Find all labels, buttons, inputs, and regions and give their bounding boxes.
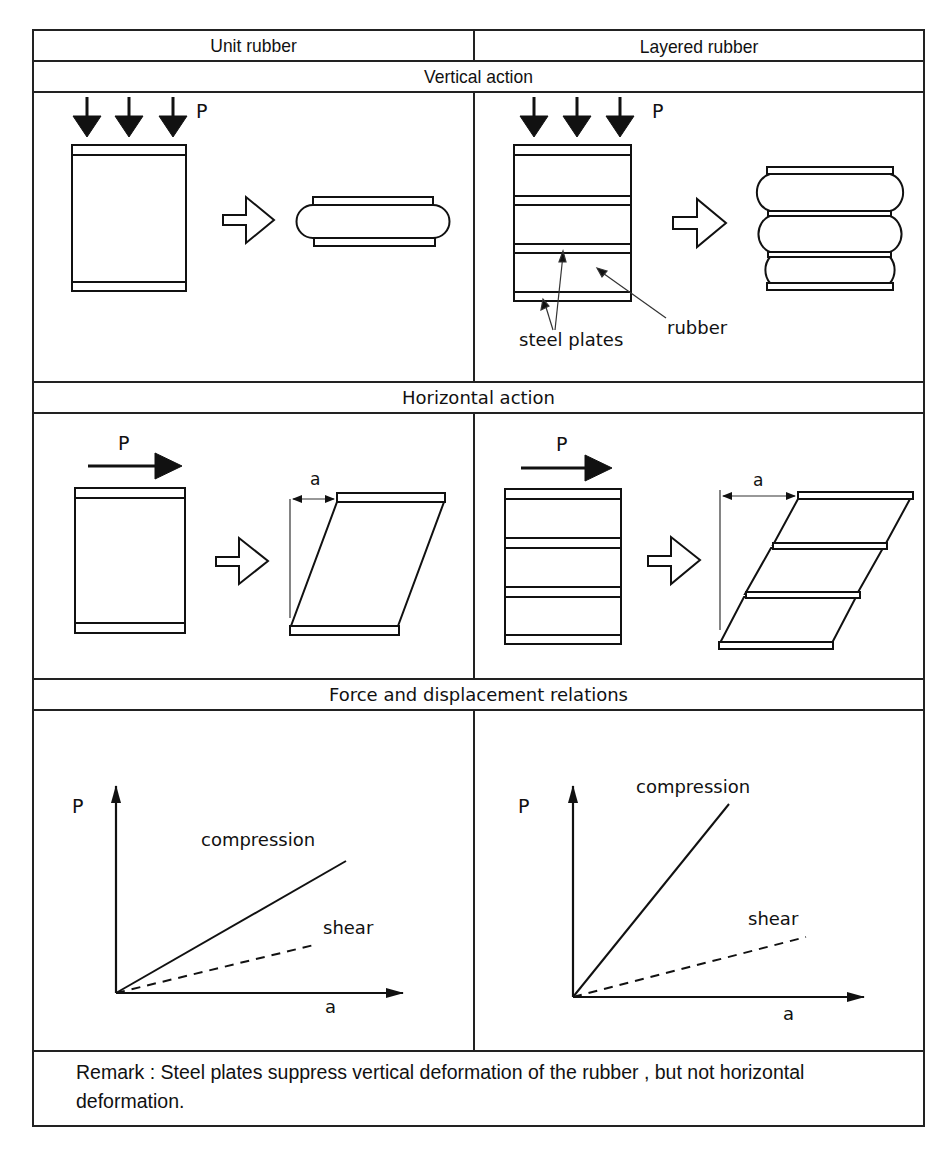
vertical-layered-compressed-block	[757, 167, 903, 290]
layered-graph-shear-line	[573, 937, 806, 997]
horizontal-layered-load-arrow-icon	[521, 455, 612, 481]
transform-arrow-icon	[673, 199, 726, 247]
unit-graph-shear-label: shear	[323, 917, 373, 939]
section-title-vertical-action: Vertical action	[69, 62, 889, 92]
unit-graph-y-label: P	[72, 795, 83, 817]
section-title-horizontal-action: Horizontal action	[33, 383, 924, 413]
horizontal-layered-load-label: P	[556, 433, 567, 455]
rubber-label: rubber	[667, 317, 727, 339]
unit-graph-shear-line	[116, 944, 318, 993]
vertical-unit-rubber-block	[72, 145, 186, 291]
remark-text: Remark : Steel plates suppress vertical …	[76, 1058, 916, 1116]
horizontal-layered-rubber-block	[505, 489, 621, 644]
transform-arrow-icon	[648, 537, 700, 584]
vertical-layered-load-arrows-icon	[520, 97, 634, 137]
layered-graph-x-label: a	[783, 1003, 794, 1025]
vertical-unit-load-arrows-icon	[73, 97, 187, 137]
layered-graph-compression-line	[573, 804, 729, 997]
layered-graph-shear-label: shear	[748, 908, 798, 930]
section-title-force-displacement: Force and displacement relations	[33, 680, 924, 710]
vertical-layered-load-label: P	[652, 100, 663, 122]
horizontal-unit-load-label: P	[118, 432, 129, 454]
transform-arrow-icon	[223, 197, 274, 243]
layered-graph-compression-label: compression	[636, 776, 750, 798]
unit-graph-compression-label: compression	[201, 829, 315, 851]
horizontal-unit-displacement-label: a	[310, 468, 320, 490]
column-header-unit-rubber: Unit rubber	[51, 31, 457, 61]
horizontal-layered-displacement-label: a	[753, 469, 763, 491]
layered-graph-y-label: P	[518, 795, 529, 817]
horizontal-unit-sheared-block	[290, 493, 445, 635]
unit-graph-x-label: a	[325, 996, 336, 1018]
transform-arrow-icon	[216, 538, 268, 584]
vertical-layered-rubber-block	[514, 145, 631, 301]
vertical-unit-compressed-block	[297, 197, 450, 246]
steel-plates-label: steel plates	[519, 329, 623, 351]
diagram-canvas	[0, 0, 949, 1158]
vertical-unit-load-label: P	[196, 100, 207, 122]
unit-graph-compression-line	[116, 861, 346, 993]
unit-graph-axes	[116, 786, 403, 993]
horizontal-unit-rubber-block	[75, 488, 185, 633]
column-header-layered-rubber: Layered rubber	[492, 32, 906, 62]
horizontal-unit-load-arrow-icon	[88, 453, 182, 479]
horizontal-layered-sheared-block	[719, 492, 913, 649]
